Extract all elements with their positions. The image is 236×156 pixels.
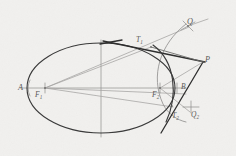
dot-t1 [150, 46, 152, 48]
label-point-q2: Q2 [191, 111, 199, 119]
label-focus-1: F1 [35, 91, 42, 99]
dot-t2 [171, 105, 173, 107]
dot-f1 [44, 87, 46, 89]
label-q-text: Q [187, 17, 193, 26]
label-q2-sub: 2 [197, 114, 200, 120]
label-q2-text: Q [191, 110, 196, 119]
label-f2-text: F [152, 90, 157, 99]
label-tangent-point-2: T2 [172, 112, 179, 120]
label-b-text: B [181, 82, 186, 91]
dot-f2 [159, 87, 161, 89]
label-a-text: A [18, 83, 23, 92]
geometry-drawing [0, 0, 236, 156]
label-tangent-point-1: T1 [136, 36, 143, 44]
label-t1-sub: 1 [140, 39, 143, 45]
label-f1-text: F [35, 90, 40, 99]
label-point-p: P [205, 56, 210, 64]
dot-p [202, 61, 204, 63]
label-point-b: B [181, 83, 186, 91]
figure-canvas: A F1 F2 T1 T2 P Q B Q2 [0, 0, 236, 156]
label-t2-sub: 2 [176, 115, 179, 121]
label-point-a: A [18, 84, 23, 92]
label-point-q: Q [187, 18, 193, 26]
paper-texture [0, 0, 236, 156]
label-f2-sub: 2 [157, 94, 160, 100]
label-focus-2: F2 [152, 91, 159, 99]
label-f1-sub: 1 [40, 94, 43, 100]
label-p-text: P [205, 55, 210, 64]
